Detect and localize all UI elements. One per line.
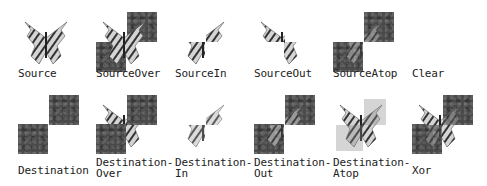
butterfly-icon (336, 16, 386, 68)
mode-label: Xor (412, 165, 431, 176)
mode-label: SourceAtop (333, 68, 397, 79)
mode-source-out: SourceOut (253, 0, 332, 93)
butterfly-icon (336, 99, 386, 151)
mode-source-atop: SourceAtop (332, 0, 411, 93)
destination-square (127, 95, 157, 125)
destination-square (96, 124, 126, 154)
destination-square (18, 124, 48, 154)
mode-destination: Destination (17, 93, 96, 186)
butterfly-icon (257, 99, 307, 151)
mode-label: Destination-In (175, 157, 252, 179)
mode-destination-atop: Destination-Atop (332, 93, 411, 186)
mode-label: SourceOver (96, 68, 160, 79)
mode-label: Destination-Out (254, 157, 331, 179)
mode-label: SourceIn (175, 68, 226, 79)
mode-label: Destination-Over (96, 157, 173, 179)
mode-source-over: SourceOver (95, 0, 174, 93)
mode-clear: Clear (411, 0, 487, 93)
mode-destination-in: Destination-In (174, 93, 253, 186)
mode-source: Source (17, 0, 96, 93)
mode-label: Destination (18, 165, 89, 176)
mode-label: SourceOut (254, 68, 312, 79)
destination-square (49, 95, 79, 125)
butterfly-icon (178, 99, 228, 151)
mode-destination-over: Destination-Over (95, 93, 174, 186)
mode-label: Source (18, 68, 57, 79)
mode-source-in: SourceIn (174, 0, 253, 93)
butterfly-icon (178, 16, 228, 68)
butterfly-icon (21, 16, 71, 68)
butterfly-icon (415, 99, 465, 151)
mode-destination-out: Destination-Out (253, 93, 332, 186)
butterfly-icon (99, 16, 149, 68)
mode-xor: Xor (411, 93, 487, 186)
mode-label: Clear (412, 68, 444, 79)
mode-label: Destination-Atop (333, 157, 410, 179)
butterfly-icon (257, 16, 307, 68)
